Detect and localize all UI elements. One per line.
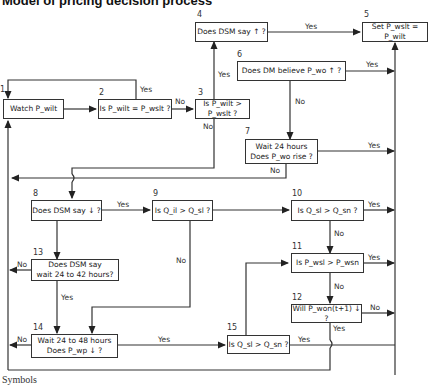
node-12-will-pwon-fall[interactable]: Will P_won(t+1) ↓ ? (291, 304, 362, 323)
node-15-qsl-qsn[interactable]: Is Q_sl > Q_sn ? (227, 335, 290, 354)
label-7-no: No (270, 166, 280, 175)
label-14-yes: Yes (158, 335, 170, 344)
node-3-greater-check[interactable]: Is P_wilt > P_wslt ? (195, 99, 250, 119)
label-10-yes: Yes (368, 200, 380, 209)
label-10-no: No (334, 229, 344, 238)
node-number-10: 10 (292, 189, 302, 198)
node-number-1: 1 (0, 85, 5, 94)
node-4-dsm-up[interactable]: Does DSM say ↑ ? (195, 22, 268, 42)
label-4-yes: Yes (305, 22, 317, 31)
node-2-equal-check[interactable]: Is P_wilt = P_wslt ? (98, 99, 172, 119)
node-10-qsl-qsn[interactable]: Is Q_sl > Q_sn ? (291, 200, 364, 221)
node-number-7: 7 (245, 127, 250, 136)
node-13-dsm-wait[interactable]: Does DSM saywait 24 to 42 hours? (31, 259, 119, 281)
label-11-yes: Yes (368, 253, 380, 262)
node-number-9: 9 (153, 189, 158, 198)
node-14-wait-24-48[interactable]: Wait 24 to 48 hoursDoes P_wp ↓ ? (31, 334, 118, 358)
label-2-no: No (175, 97, 185, 106)
label-9-no: No (176, 256, 186, 265)
node-number-4: 4 (197, 10, 202, 19)
node-8-dsm-down[interactable]: Does DSM say ↓ ? (31, 200, 102, 221)
node-number-13: 13 (33, 248, 43, 257)
node-9-qil-qsl[interactable]: Is Q_il > Q_sl ? (152, 200, 213, 221)
node-number-8: 8 (33, 189, 38, 198)
node-number-12: 12 (292, 293, 302, 302)
label-11-no: No (334, 282, 344, 291)
label-3-yes: Yes (218, 70, 230, 79)
label-13-no: No (17, 260, 27, 269)
node-1-watch[interactable]: Watch P_wilt (3, 99, 64, 119)
node-11-pwsl-pwsn[interactable]: Is P_wsl > P_wsn (291, 253, 364, 273)
node-number-2: 2 (99, 88, 104, 97)
label-12-no: No (370, 303, 380, 312)
node-6-dm-believe[interactable]: Does DM believe P_wo ↑ ? (237, 61, 346, 81)
node-number-6: 6 (237, 50, 242, 59)
label-6-no: No (295, 97, 305, 106)
label-7-yes: Yes (368, 141, 380, 150)
label-15-yes: Yes (298, 335, 310, 344)
node-number-3: 3 (198, 88, 203, 97)
node-number-5: 5 (364, 10, 369, 19)
label-14-no: No (17, 335, 27, 344)
label-8-yes: Yes (117, 200, 129, 209)
node-7-wait-24[interactable]: Wait 24 hoursDoes P_wo rise ? (245, 139, 318, 164)
symbols-heading: Symbols (2, 374, 37, 385)
label-13-yes: Yes (61, 293, 73, 302)
node-number-14: 14 (33, 323, 43, 332)
label-2-yes: Yes (140, 85, 152, 94)
node-number-11: 11 (292, 242, 302, 251)
node-number-15: 15 (227, 323, 237, 332)
node-5-set-price[interactable]: Set P_wslt = P_wilt (362, 22, 428, 42)
label-12-yes: Yes (333, 324, 345, 333)
label-3-no: No (203, 122, 213, 131)
label-6-yes: Yes (366, 60, 378, 69)
flow-connectors (0, 0, 431, 390)
